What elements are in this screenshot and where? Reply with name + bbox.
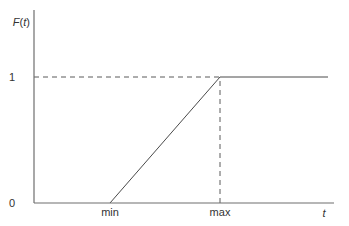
- y-axis-label: F(t): [13, 16, 30, 28]
- y-tick-label-0: 0: [9, 197, 15, 209]
- x-tick-label-min: min: [101, 206, 119, 218]
- cdf-line: [110, 77, 328, 203]
- x-axis-label: t: [322, 207, 326, 219]
- cdf-chart: F(t) t minmax01: [0, 0, 349, 226]
- x-tick-label-max: max: [210, 206, 231, 218]
- y-tick-label-1: 1: [9, 71, 15, 83]
